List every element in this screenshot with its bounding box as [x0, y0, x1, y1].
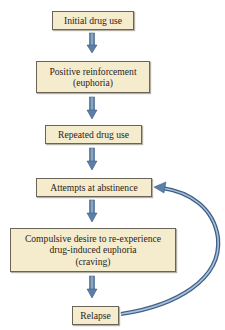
node-label-line: drug-induced euphoria — [49, 244, 136, 256]
node-craving: Compulsive desire to re-experience drug-… — [10, 228, 176, 272]
node-initial-drug-use: Initial drug use — [52, 11, 134, 30]
node-label-line: Relapse — [80, 310, 110, 322]
node-label-line: Positive reinforcement — [49, 66, 136, 78]
arrow-repeated-to-abstinence — [87, 148, 97, 170]
node-attempts-at-abstinence: Attempts at abstinence — [36, 178, 152, 197]
arrow-craving-to-relapse — [87, 276, 97, 298]
node-label-line: Repeated drug use — [58, 129, 129, 141]
node-positive-reinforcement: Positive reinforcement (euphoria) — [36, 61, 150, 93]
arrow-initial-to-reinforcement — [87, 33, 97, 53]
node-label-line: Initial drug use — [64, 15, 122, 27]
arrows-layer — [0, 0, 225, 330]
node-relapse: Relapse — [72, 306, 119, 325]
arrow-reinforcement-to-repeated — [87, 97, 97, 119]
arrow-abstinence-to-craving — [87, 200, 97, 222]
node-repeated-drug-use: Repeated drug use — [45, 125, 142, 144]
node-label-line: (euphoria) — [73, 77, 113, 89]
node-label-line: (craving) — [75, 256, 110, 268]
node-label-line: Attempts at abstinence — [50, 182, 137, 194]
node-label-line: Compulsive desire to re-experience — [25, 233, 161, 245]
